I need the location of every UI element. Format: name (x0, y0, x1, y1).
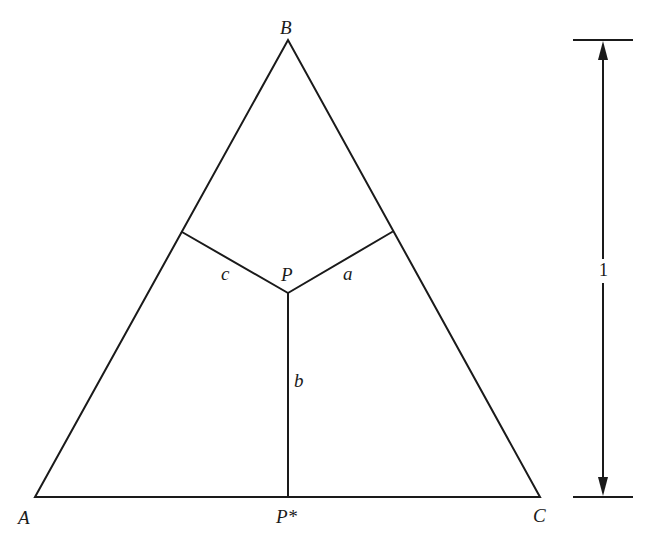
vertex-label-A: A (18, 508, 30, 527)
triangle-diagram (0, 0, 653, 540)
segment-label-a: a (343, 264, 353, 283)
foot-label-P-star: P* (276, 507, 297, 526)
segment-label-b: b (294, 371, 304, 390)
height-label: 1 (599, 261, 608, 279)
vertex-label-B: B (280, 18, 292, 37)
segment-label-c: c (221, 264, 229, 283)
segment-c (182, 232, 288, 293)
segment-a (288, 232, 392, 293)
point-label-P: P (281, 265, 293, 284)
vertex-label-C: C (533, 506, 546, 525)
arrow-up-icon (598, 41, 608, 60)
arrow-down-icon (598, 477, 608, 496)
